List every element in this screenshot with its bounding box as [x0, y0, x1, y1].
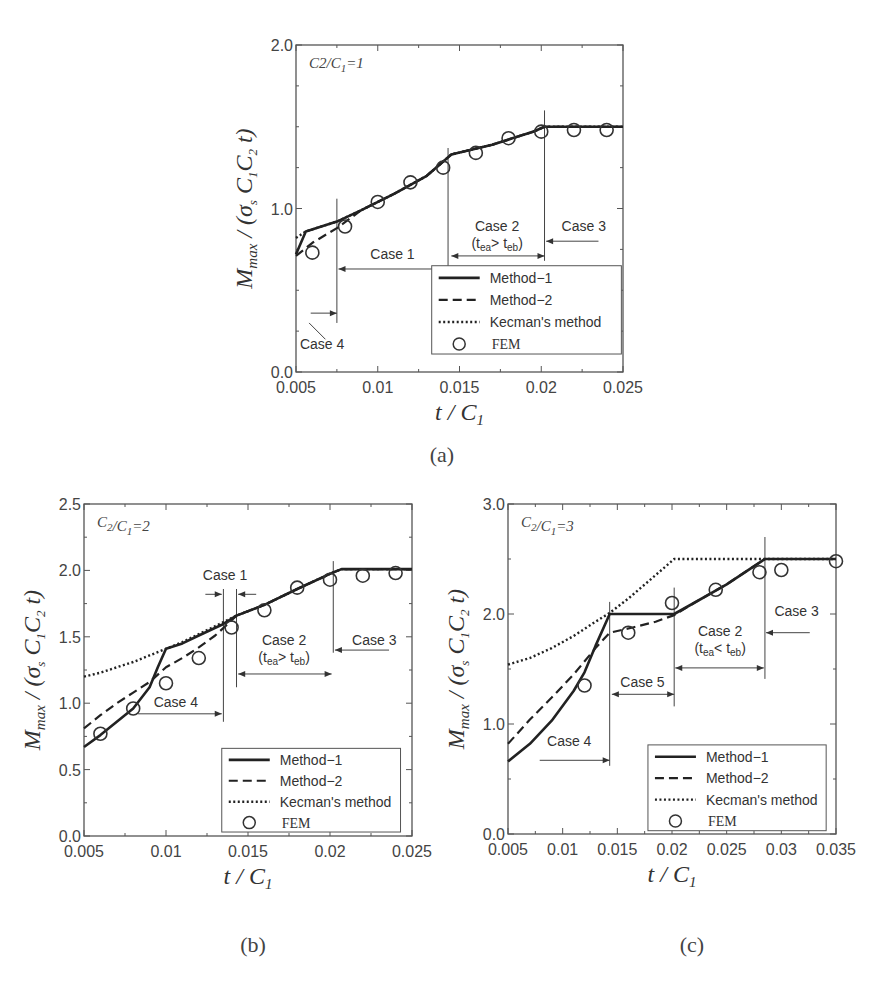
arrowhead-icon [330, 310, 337, 316]
x-tick-label: 0.03 [766, 841, 797, 858]
x-tick-label: 0.025 [392, 843, 432, 860]
legend-label: Method−2 [490, 292, 553, 308]
legend-label: FEM [708, 814, 737, 829]
legend: Method−1Method−2Kecman's methodFEM [432, 266, 622, 354]
fem-data-point [775, 564, 788, 577]
case-label: Case 2 [262, 632, 307, 648]
x-tick-label: 0.01 [150, 843, 181, 860]
x-tick-label: 0.015 [228, 843, 268, 860]
legend: Method−1Method−2Kecman's methodFEM [222, 748, 401, 832]
arrowhead-icon [766, 630, 773, 636]
y-tick-label: 3.0 [483, 496, 505, 513]
fem-data-point [578, 679, 591, 692]
legend: Method−1Method−2Kecman's methodFEM [648, 745, 826, 831]
case-label: Case 2 [475, 218, 520, 234]
fem-data-point [192, 652, 205, 665]
arrowhead-icon [335, 647, 342, 653]
fem-data-point [567, 124, 580, 137]
series-kecman-s-method [84, 569, 412, 677]
y-tick-label: 2.0 [271, 37, 293, 54]
arrowhead-icon [546, 238, 553, 244]
y-tick-label: 0.0 [483, 826, 505, 843]
y-axis-title: Mmax / (σs C1C2 t) [443, 589, 472, 750]
case-label: (tea> teb) [471, 235, 522, 253]
x-tick-label: 0.025 [707, 841, 747, 858]
x-tick-label: 0.025 [603, 379, 643, 396]
fem-data-point [600, 124, 613, 137]
y-tick-label: 0.0 [271, 364, 293, 381]
fem-data-point [306, 246, 319, 259]
legend-label: Kecman's method [490, 314, 602, 330]
y-tick-label: 2.5 [59, 496, 81, 513]
arrowhead-icon [667, 691, 674, 697]
case-label: Case 5 [620, 674, 665, 690]
y-tick-label: 1.0 [271, 201, 293, 218]
y-tick-label: 2.0 [483, 606, 505, 623]
arrowhead-icon [215, 591, 222, 597]
x-tick-label: 0.005 [488, 841, 528, 858]
series-method-1 [84, 569, 412, 747]
case-label: (tea< teb) [694, 640, 745, 658]
y-tick-label: 1.0 [483, 716, 505, 733]
x-tick-label: 0.015 [597, 841, 637, 858]
x-tick-label: 0.005 [64, 843, 104, 860]
arrowhead-icon [451, 253, 458, 259]
legend-label: Method−1 [706, 749, 769, 765]
legend-label: Kecman's method [706, 792, 818, 808]
case-label: (tea> teb) [258, 649, 309, 667]
caption-a: (a) [430, 442, 454, 467]
case-label: Case 1 [370, 246, 415, 262]
arrowhead-icon [538, 253, 545, 259]
x-tick-label: 0.02 [314, 843, 345, 860]
y-axis-title: Mmax / (σs C1C2 t) [231, 128, 260, 289]
arrowhead-icon [675, 665, 682, 671]
case-label: Case 4 [154, 694, 199, 710]
x-tick-label: 0.005 [276, 379, 316, 396]
series-method-1 [508, 559, 836, 761]
chart-c: 0.0050.010.0150.020.0250.030.0350.01.02.… [443, 496, 856, 890]
y-tick-label: 2.0 [59, 562, 81, 579]
arrowhead-icon [757, 665, 764, 671]
case-label: Case 3 [352, 632, 397, 648]
arrowhead-icon [238, 671, 245, 677]
chart-a: 0.0050.010.0150.020.0250.01.02.0t / C1Mm… [231, 37, 643, 428]
fem-data-point [160, 677, 173, 690]
series-method-2 [84, 569, 412, 728]
caption-c: (c) [680, 932, 704, 957]
case-label: Case 1 [203, 567, 248, 583]
fem-data-point [666, 597, 679, 610]
x-axis-title: t / C1 [648, 861, 697, 890]
x-axis-title: t / C1 [435, 399, 484, 428]
arrowhead-icon [325, 671, 332, 677]
y-tick-label: 0.5 [59, 762, 81, 779]
arrowhead-icon [215, 711, 222, 717]
x-tick-label: 0.035 [816, 841, 856, 858]
legend-label: Method−2 [280, 773, 343, 789]
x-tick-label: 0.01 [362, 379, 393, 396]
arrowhead-icon [238, 591, 245, 597]
case-label: Case 4 [300, 336, 345, 352]
x-tick-label: 0.015 [439, 379, 479, 396]
y-axis-title: Mmax / (σs C1C2 t) [19, 590, 48, 751]
x-axis-title: t / C1 [224, 863, 273, 892]
case-label: Case 4 [547, 733, 592, 749]
series-method-2 [508, 559, 836, 744]
ratio-annotation: C2/C1=2 [97, 514, 150, 537]
legend-label: Method−1 [280, 752, 343, 768]
arrowhead-icon [603, 757, 610, 763]
ratio-annotation: C2/C1=3 [521, 514, 574, 537]
series-method-2 [296, 127, 623, 256]
x-tick-label: 0.02 [526, 379, 557, 396]
fem-data-point [356, 569, 369, 582]
legend-label: Method−1 [490, 270, 553, 286]
case-label: Case 3 [774, 603, 819, 619]
x-tick-label: 0.01 [547, 841, 578, 858]
arrowhead-icon [612, 691, 619, 697]
caption-b: (b) [240, 932, 266, 957]
ratio-annotation: C2/C1=1 [309, 55, 364, 74]
arrowhead-icon [339, 266, 346, 272]
y-tick-label: 1.5 [59, 629, 81, 646]
series-method-1 [296, 127, 623, 255]
chart-b: 0.0050.010.0150.020.0250.00.51.01.52.02.… [19, 496, 432, 892]
y-tick-label: 1.0 [59, 695, 81, 712]
